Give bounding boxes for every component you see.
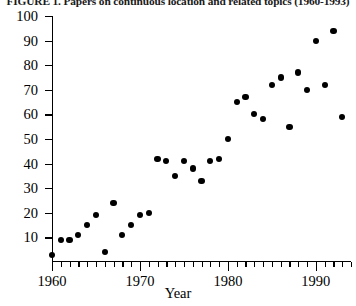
x-axis-tick-minor xyxy=(184,262,185,267)
x-axis-tick-minor xyxy=(61,262,62,267)
y-axis-label: 80 xyxy=(24,58,39,73)
scatter-point xyxy=(190,165,196,171)
x-axis-tick-minor xyxy=(166,262,167,267)
x-axis-tick-minor xyxy=(272,262,273,267)
y-axis-line xyxy=(52,16,53,262)
x-axis-tick-minor xyxy=(175,262,176,267)
x-axis-tick-major xyxy=(140,262,141,271)
x-axis-tick-minor xyxy=(87,262,88,267)
scatter-point xyxy=(110,200,116,206)
scatter-point xyxy=(58,237,64,243)
scatter-point xyxy=(269,82,275,88)
scatter-point xyxy=(163,158,169,164)
y-axis-tick xyxy=(45,139,52,140)
scatter-point xyxy=(260,116,266,122)
y-axis-label: 10 xyxy=(24,230,39,245)
y-axis-tick xyxy=(45,90,52,91)
y-axis-tick xyxy=(45,65,52,66)
figure-title: FIGURE 1. Papers on continuous location … xyxy=(0,0,356,7)
x-axis-tick-major xyxy=(316,262,317,271)
scatter-point xyxy=(339,114,345,120)
y-axis-label: 60 xyxy=(24,107,39,122)
scatter-point xyxy=(75,232,81,238)
x-axis-tick-minor xyxy=(96,262,97,267)
y-axis-label: 30 xyxy=(24,181,39,196)
x-axis-tick-minor xyxy=(78,262,79,267)
y-axis-tick xyxy=(45,16,52,17)
scatter-point xyxy=(146,210,152,216)
y-axis-label: 20 xyxy=(24,206,39,221)
y-axis-label: 50 xyxy=(24,132,39,147)
x-axis-tick-minor xyxy=(193,262,194,267)
scatter-point xyxy=(304,87,310,93)
x-axis-tick-minor xyxy=(105,262,106,267)
y-axis-tick xyxy=(45,188,52,189)
scatter-point xyxy=(330,28,336,34)
scatter-point xyxy=(102,249,108,255)
scatter-point xyxy=(225,136,231,142)
x-axis-tick-minor xyxy=(131,262,132,267)
scatter-point xyxy=(93,212,99,218)
x-axis-tick-minor xyxy=(202,262,203,267)
x-axis-tick-minor xyxy=(325,262,326,267)
scatter-point xyxy=(84,222,90,228)
y-axis-label: 100 xyxy=(16,9,38,24)
scatter-point xyxy=(198,178,204,184)
x-axis-tick-minor xyxy=(351,262,352,267)
x-axis-tick-minor xyxy=(245,262,246,267)
x-axis-tick-minor xyxy=(263,262,264,267)
x-axis-tick-minor xyxy=(298,262,299,267)
x-axis-tick-minor xyxy=(122,262,123,267)
scatter-point xyxy=(66,237,72,243)
x-axis-tick-major xyxy=(228,262,229,271)
x-axis-tick-minor xyxy=(219,262,220,267)
scatter-point xyxy=(278,74,284,80)
x-axis-tick-minor xyxy=(149,262,150,267)
x-axis-tick-minor xyxy=(210,262,211,267)
x-axis-tick-minor xyxy=(333,262,334,267)
scatter-point xyxy=(242,94,248,100)
x-axis-tick-minor xyxy=(70,262,71,267)
x-axis-title: Year xyxy=(0,286,356,301)
scatter-point xyxy=(172,173,178,179)
x-axis-tick-minor xyxy=(342,262,343,267)
x-axis-tick-minor xyxy=(289,262,290,267)
scatter-point xyxy=(154,156,160,162)
scatter-point xyxy=(286,124,292,130)
y-axis-label: 40 xyxy=(24,156,39,171)
y-axis-tick xyxy=(45,114,52,115)
x-axis-tick-minor xyxy=(158,262,159,267)
scatter-point xyxy=(313,38,319,44)
x-axis-tick-minor xyxy=(254,262,255,267)
scatter-point xyxy=(216,156,222,162)
scatter-point xyxy=(251,111,257,117)
scatter-point xyxy=(207,158,213,164)
scatter-point xyxy=(137,212,143,218)
scatter-point xyxy=(119,232,125,238)
x-axis-tick-minor xyxy=(114,262,115,267)
y-axis-label: 90 xyxy=(24,33,39,48)
scatter-point xyxy=(234,99,240,105)
scatter-point xyxy=(49,252,55,258)
y-axis-label: 70 xyxy=(24,83,39,98)
scatter-point xyxy=(181,158,187,164)
scatter-point xyxy=(128,222,134,228)
y-axis-tick xyxy=(45,237,52,238)
figure-container: FIGURE 1. Papers on continuous location … xyxy=(0,0,356,306)
x-axis-tick-minor xyxy=(237,262,238,267)
y-axis-tick xyxy=(45,41,52,42)
x-axis-tick-minor xyxy=(281,262,282,267)
y-axis-tick xyxy=(45,213,52,214)
y-axis-tick xyxy=(45,164,52,165)
x-axis-tick-major xyxy=(52,262,53,271)
scatter-point xyxy=(295,69,301,75)
plot-area: 102030405060708090100 1960197019801990 xyxy=(52,16,351,262)
x-axis-tick-minor xyxy=(307,262,308,267)
scatter-point xyxy=(322,82,328,88)
